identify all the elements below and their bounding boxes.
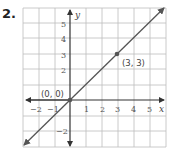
- svg-text:5: 5: [147, 105, 152, 114]
- svg-text:5: 5: [61, 20, 66, 29]
- y-axis-label: y: [74, 10, 81, 20]
- x-tick-labels: −2 −1 1 2 3 4 5: [30, 105, 152, 114]
- grid: [23, 8, 166, 147]
- svg-text:4: 4: [61, 35, 66, 44]
- label-3-3: (3, 3): [122, 58, 145, 68]
- svg-text:4: 4: [131, 105, 136, 114]
- coordinate-plane: y x −2 −1 1 2 3 4 5 5 4 3 2 −2 (0, 0) (3…: [0, 0, 169, 150]
- x-axis-label: x: [159, 104, 164, 114]
- svg-text:−2: −2: [30, 105, 42, 114]
- label-origin: (0, 0): [41, 89, 64, 99]
- svg-text:2: 2: [61, 66, 66, 75]
- point-origin: [68, 98, 73, 103]
- svg-text:−2: −2: [56, 127, 68, 136]
- y-tick-labels: 5 4 3 2 −2: [56, 20, 68, 136]
- svg-text:3: 3: [61, 51, 66, 60]
- point-3-3: [115, 52, 120, 57]
- svg-text:1: 1: [84, 105, 89, 114]
- svg-text:2: 2: [100, 105, 105, 114]
- svg-text:3: 3: [115, 105, 120, 114]
